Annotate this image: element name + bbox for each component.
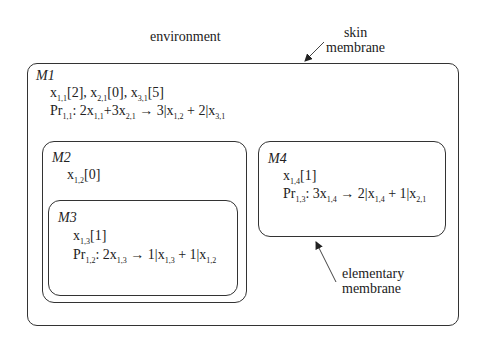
object-var: x xyxy=(50,85,57,100)
rule-term: 3|x xyxy=(157,103,174,118)
object-sub: 3,1 xyxy=(138,94,148,103)
rule-term-sub: 1,3 xyxy=(117,256,127,265)
membrane-m2-title: M2 xyxy=(52,150,71,166)
rule-term-sub: 3,1 xyxy=(215,112,225,121)
membrane-m4-objects: x1,4[1] xyxy=(283,169,316,183)
object-count: [1] xyxy=(300,168,316,183)
rule-term-sub: 1,3 xyxy=(165,256,175,265)
rule-pr: Pr xyxy=(50,103,62,118)
membrane-m3-objects: x1,3[1] xyxy=(73,229,106,243)
rule-term-sub: 1,4 xyxy=(327,195,337,204)
rule-arrow: → xyxy=(136,103,157,118)
rule-term: 2x xyxy=(103,247,117,262)
object-sub: 1,3 xyxy=(80,237,90,246)
membrane-m4-rule: Pr1,3: 3x1,4 → 2|x1,4 + 1|x2,1 xyxy=(283,187,426,201)
membrane-m4-title: M4 xyxy=(268,151,287,167)
object-count: [1] xyxy=(90,228,106,243)
rule-pr: Pr xyxy=(73,247,85,262)
skin-membrane-arrow xyxy=(305,42,324,61)
membrane-m3-title: M3 xyxy=(58,210,77,226)
object-count: [0] xyxy=(84,167,100,182)
environment-label: environment xyxy=(150,30,221,44)
object-sub: 1,2 xyxy=(74,176,84,185)
rule-term: + 1|x xyxy=(385,186,417,201)
object-var: x xyxy=(73,228,80,243)
object-sub: 1,4 xyxy=(290,177,300,186)
object-sub: 1,1 xyxy=(57,94,67,103)
membrane-m3-rule: Pr1,2: 2x1,3 → 1|x1,3 + 1|x1,2 xyxy=(73,248,216,262)
rule-arrow: → xyxy=(337,186,358,201)
object-sub: 2,1 xyxy=(97,94,107,103)
skin-membrane-label: skin membrane xyxy=(326,25,385,55)
rule-term: 2|x xyxy=(358,186,375,201)
rule-pr-sub: 1,1 xyxy=(62,112,72,121)
rule-term: 2x xyxy=(80,103,94,118)
rule-colon: : xyxy=(72,103,79,118)
rule-term: 1|x xyxy=(148,247,165,262)
rule-pr: Pr xyxy=(283,186,295,201)
rule-term-sub: 1,2 xyxy=(174,112,184,121)
rule-colon: : xyxy=(305,186,312,201)
skin-label-line2: membrane xyxy=(326,40,385,55)
sep: , xyxy=(124,85,131,100)
rule-term: + 1|x xyxy=(175,247,207,262)
membrane-m1-title: M1 xyxy=(36,68,55,84)
object-var: x xyxy=(67,167,74,182)
object-count: [0] xyxy=(107,85,123,100)
rule-term-sub: 1,2 xyxy=(206,256,216,265)
rule-term: 3x xyxy=(313,186,327,201)
membrane-m1-rule: Pr1,1: 2x1,1+3x2,1 → 3|x1,2 + 2|x3,1 xyxy=(50,104,225,118)
membrane-m1-objects: x1,1[2], x2,1[0], x3,1[5] xyxy=(50,86,164,100)
rule-arrow: → xyxy=(127,247,148,262)
rule-pr-sub: 1,3 xyxy=(295,195,305,204)
rule-term-sub: 2,1 xyxy=(126,112,136,121)
object-var: x xyxy=(283,168,290,183)
rule-colon: : xyxy=(95,247,102,262)
object-count: [5] xyxy=(148,85,164,100)
object-var: x xyxy=(131,85,138,100)
object-count: [2] xyxy=(67,85,83,100)
rule-term: + 2|x xyxy=(184,103,216,118)
rule-term: +3x xyxy=(104,103,126,118)
rule-term-sub: 1,4 xyxy=(375,195,385,204)
skin-label-line1: skin xyxy=(326,25,385,40)
rule-term-sub: 2,1 xyxy=(416,195,426,204)
rule-pr-sub: 1,2 xyxy=(85,256,95,265)
membrane-m2-objects: x1,2[0] xyxy=(67,168,100,182)
rule-term-sub: 1,1 xyxy=(94,112,104,121)
